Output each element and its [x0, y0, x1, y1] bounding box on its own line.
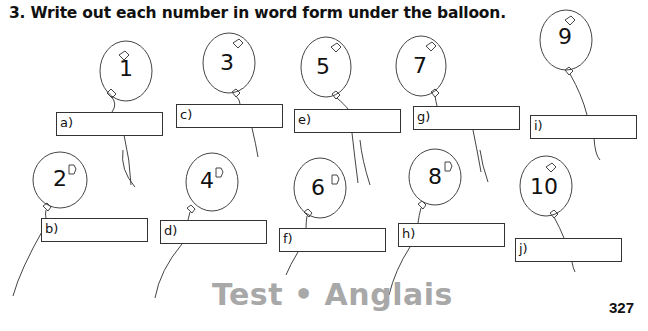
- answer-input-j[interactable]: [538, 241, 622, 261]
- answer-label-a: a): [60, 115, 73, 130]
- answer-input-i[interactable]: [553, 118, 637, 138]
- answer-input-d[interactable]: [183, 223, 267, 243]
- answer-label-i: i): [534, 118, 543, 133]
- answer-input-f[interactable]: [302, 231, 386, 251]
- balloon-number-8: 8: [415, 164, 455, 189]
- answer-input-e[interactable]: [317, 112, 401, 132]
- balloon-number-7: 7: [400, 53, 440, 78]
- answer-input-h[interactable]: [421, 226, 505, 246]
- balloon-number-9: 9: [545, 24, 585, 49]
- balloon-number-10: 10: [524, 174, 564, 199]
- balloon-number-3: 3: [207, 50, 247, 75]
- watermark: Test • Anglais: [212, 277, 453, 312]
- answer-box-f[interactable]: f): [279, 228, 386, 252]
- answer-label-g: g): [417, 109, 430, 124]
- answer-box-j[interactable]: j): [515, 238, 622, 262]
- answer-label-f: f): [283, 231, 293, 246]
- balloon-number-2: 2: [40, 166, 80, 191]
- answer-label-j: j): [519, 241, 528, 256]
- balloon-number-1: 1: [106, 56, 146, 81]
- answer-input-a[interactable]: [79, 115, 163, 135]
- answer-label-c: c): [180, 107, 192, 122]
- answer-label-h: h): [402, 226, 415, 241]
- answer-box-i[interactable]: i): [530, 115, 637, 139]
- page-number: 327: [609, 299, 634, 316]
- answer-box-b[interactable]: b): [41, 218, 148, 242]
- answer-label-b: b): [45, 221, 58, 236]
- answer-box-a[interactable]: a): [56, 112, 163, 136]
- balloon-number-5: 5: [303, 54, 343, 79]
- answer-input-g[interactable]: [436, 109, 520, 129]
- answer-input-c[interactable]: [199, 107, 283, 127]
- answer-box-c[interactable]: c): [176, 104, 283, 128]
- answer-label-e: e): [298, 112, 311, 127]
- answer-box-e[interactable]: e): [294, 109, 401, 133]
- answer-box-d[interactable]: d): [160, 220, 267, 244]
- answer-box-h[interactable]: h): [398, 223, 505, 247]
- balloon-number-4: 4: [187, 168, 227, 193]
- answer-box-g[interactable]: g): [413, 106, 520, 130]
- answer-label-d: d): [164, 223, 177, 238]
- balloon-number-6: 6: [298, 175, 338, 200]
- answer-input-b[interactable]: [64, 221, 148, 241]
